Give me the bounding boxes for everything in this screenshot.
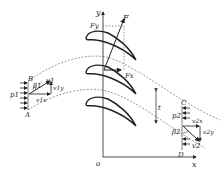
force-Fx-label: Fx bbox=[124, 72, 134, 80]
outlet-velocity-label: v2 bbox=[192, 142, 201, 150]
inlet-vy-label: v1y bbox=[53, 84, 64, 92]
corner-D: D bbox=[177, 151, 184, 159]
cascade-diagram: y x o F Fx Fy B A p1 bbox=[0, 0, 222, 171]
y-axis-label: y bbox=[95, 8, 101, 17]
origin-label: o bbox=[96, 160, 100, 168]
x-axis-label: x bbox=[192, 160, 197, 169]
corner-A: A bbox=[24, 111, 30, 119]
inlet-pressure-label: p1 bbox=[10, 91, 19, 99]
outlet-pressure-label: p2 bbox=[172, 112, 181, 120]
pitch-label: t bbox=[158, 104, 161, 112]
corner-C: C bbox=[181, 99, 187, 107]
outlet-vy-label: v2y bbox=[203, 128, 214, 136]
inlet-angle-label: β1 bbox=[32, 82, 42, 90]
outlet-angle-label: β2 bbox=[171, 128, 181, 136]
force-Fy-label: Fy bbox=[89, 22, 100, 30]
inlet-vx-label: v1x bbox=[36, 96, 47, 103]
outlet-vx-label: v2x bbox=[192, 117, 203, 124]
force-F-label: F bbox=[122, 13, 129, 22]
